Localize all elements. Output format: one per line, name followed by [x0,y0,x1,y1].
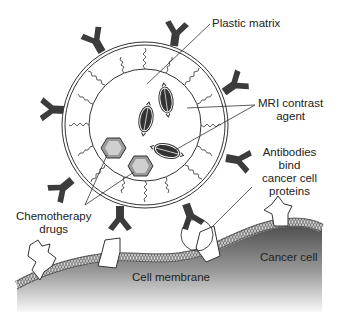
label-mri-line1: MRI contrast [258,97,323,110]
label-cancer-cell: Cancer cell [260,251,318,264]
label-cell-membrane: Cell membrane [132,271,210,284]
nanoparticle-diagram: Plastic matrix MRI contrast agent Antibo… [0,0,341,326]
label-antibodies: Antibodies bind cancer cell proteins [262,146,317,198]
label-antibodies-line1: Antibodies [262,146,317,159]
label-antibodies-line3: cancer cell [262,172,317,185]
label-mri-line2: agent [258,110,323,123]
nanoparticle [40,20,253,232]
label-mri-contrast-agent: MRI contrast agent [258,97,323,123]
label-chemotherapy-drugs: Chemotherapy drugs [16,210,91,236]
label-plastic-matrix: Plastic matrix [212,17,280,30]
label-chemo-line2: drugs [16,223,91,236]
label-antibodies-line2: bind [262,159,317,172]
label-antibodies-line4: proteins [262,185,317,198]
label-chemo-line1: Chemotherapy [16,210,91,223]
